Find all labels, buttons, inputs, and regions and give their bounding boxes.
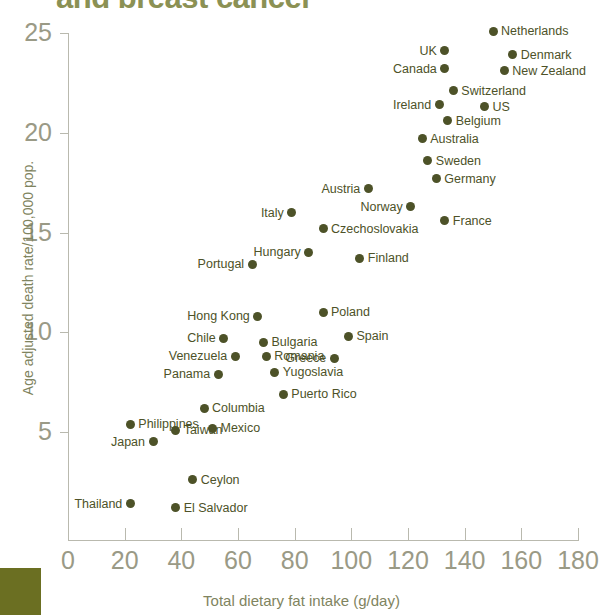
data-point[interactable] xyxy=(171,503,180,512)
data-point-label: Hungary xyxy=(254,246,301,259)
data-point[interactable] xyxy=(435,100,444,109)
data-point-label: Mexico xyxy=(221,422,261,435)
data-point-label: Columbia xyxy=(212,402,265,415)
data-point[interactable] xyxy=(330,354,339,363)
data-point[interactable] xyxy=(319,224,328,233)
data-point-label: Italy xyxy=(261,207,284,220)
data-point-label: Yugoslavia xyxy=(283,366,343,379)
x-axis-title: Total dietary fat intake (g/day) xyxy=(0,592,603,609)
data-point[interactable] xyxy=(406,202,415,211)
x-tick-mark xyxy=(125,528,126,541)
data-point[interactable] xyxy=(418,134,427,143)
y-tick-label: 25 xyxy=(0,20,52,45)
data-point-label: Romania xyxy=(274,350,324,363)
x-tick-mark xyxy=(238,528,239,541)
x-tick-mark xyxy=(351,528,352,541)
x-tick-label: 100 xyxy=(321,548,381,573)
data-point-label: Canada xyxy=(393,63,437,76)
data-point-label: Austria xyxy=(321,183,360,196)
data-point-label: Ireland xyxy=(393,99,431,112)
y-tick-mark xyxy=(60,432,69,433)
data-point-label: Hong Kong xyxy=(187,310,250,323)
data-point[interactable] xyxy=(200,404,209,413)
data-point[interactable] xyxy=(432,174,441,183)
corner-color-swatch xyxy=(0,568,41,615)
data-point-label: Poland xyxy=(331,306,370,319)
data-point[interactable] xyxy=(489,27,498,36)
data-point-label: Thailand xyxy=(74,498,122,511)
data-point[interactable] xyxy=(355,254,364,263)
y-axis-line xyxy=(68,33,69,541)
data-point-label: Taiwan xyxy=(184,424,223,437)
x-tick-mark xyxy=(181,528,182,541)
data-point[interactable] xyxy=(500,66,509,75)
data-point[interactable] xyxy=(508,50,517,59)
x-tick-label: 140 xyxy=(435,548,495,573)
data-point-label: Chile xyxy=(187,332,216,345)
data-point-label: Switzerland xyxy=(461,85,526,98)
data-point-label: Sweden xyxy=(436,155,481,168)
x-tick-label: 0 xyxy=(38,548,98,573)
data-point[interactable] xyxy=(440,64,449,73)
y-tick-mark xyxy=(60,332,69,333)
data-point[interactable] xyxy=(149,437,158,446)
x-tick-mark xyxy=(68,528,69,541)
data-point-label: Venezuela xyxy=(169,350,227,363)
data-point[interactable] xyxy=(262,352,271,361)
data-point[interactable] xyxy=(440,216,449,225)
data-point[interactable] xyxy=(231,352,240,361)
x-tick-label: 40 xyxy=(151,548,211,573)
x-tick-mark xyxy=(408,528,409,541)
data-point-label: Bulgaria xyxy=(272,336,318,349)
data-point-label: Denmark xyxy=(521,49,572,62)
data-point[interactable] xyxy=(319,308,328,317)
data-point[interactable] xyxy=(364,184,373,193)
data-point-label: New Zealand xyxy=(512,65,586,78)
data-point[interactable] xyxy=(214,370,223,379)
data-point[interactable] xyxy=(304,248,313,257)
data-point[interactable] xyxy=(423,156,432,165)
x-tick-mark xyxy=(295,528,296,541)
data-point[interactable] xyxy=(248,260,257,269)
data-point[interactable] xyxy=(440,46,449,55)
data-point[interactable] xyxy=(279,390,288,399)
data-point-label: Japan xyxy=(111,436,145,449)
data-point-label: Norway xyxy=(360,201,402,214)
data-point-label: Netherlands xyxy=(501,25,568,38)
x-axis-line xyxy=(68,540,579,541)
data-point[interactable] xyxy=(344,332,353,341)
data-point[interactable] xyxy=(287,208,296,217)
data-point[interactable] xyxy=(126,499,135,508)
x-tick-label: 80 xyxy=(265,548,325,573)
y-tick-mark xyxy=(60,33,69,34)
data-point[interactable] xyxy=(443,116,452,125)
data-point-label: France xyxy=(453,215,492,228)
data-point-label: Belgium xyxy=(456,115,501,128)
data-point-label: Finland xyxy=(368,252,409,265)
x-tick-mark xyxy=(465,528,466,541)
data-point[interactable] xyxy=(188,475,197,484)
y-tick-mark xyxy=(60,233,69,234)
data-point-label: Ceylon xyxy=(201,474,240,487)
data-point[interactable] xyxy=(219,334,228,343)
data-point[interactable] xyxy=(171,426,180,435)
x-tick-label: 60 xyxy=(208,548,268,573)
data-point-label: UK xyxy=(419,45,436,58)
data-point[interactable] xyxy=(126,420,135,429)
x-tick-label: 20 xyxy=(95,548,155,573)
data-point-label: Czechoslovakia xyxy=(331,223,419,236)
data-point[interactable] xyxy=(253,312,262,321)
data-point-label: Portugal xyxy=(198,258,245,271)
y-axis-title: Age adjusted death rate/100,000 pop. xyxy=(20,98,36,458)
data-point-label: US xyxy=(493,101,510,114)
data-point[interactable] xyxy=(480,102,489,111)
data-point-label: Puerto Rico xyxy=(291,388,356,401)
data-point[interactable] xyxy=(449,86,458,95)
x-tick-label: 160 xyxy=(491,548,551,573)
data-point-label: El Salvador xyxy=(184,502,248,515)
data-point-label: Australia xyxy=(430,133,479,146)
data-point[interactable] xyxy=(259,338,268,347)
data-point-label: Panama xyxy=(164,368,211,381)
data-point[interactable] xyxy=(270,368,279,377)
x-tick-mark xyxy=(521,528,522,541)
